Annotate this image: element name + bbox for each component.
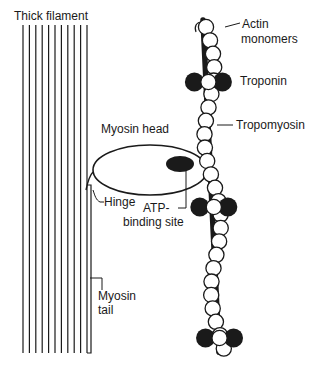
label-troponin: Troponin <box>240 74 287 88</box>
myosin-head <box>93 145 207 195</box>
actin-monomer <box>207 180 222 195</box>
label-thick-filament: Thick filament <box>14 9 89 23</box>
hinge-leader <box>93 190 104 202</box>
actin-monomer <box>212 234 227 249</box>
label-atp: ATP- <box>143 201 169 215</box>
actin-monomer <box>209 247 224 262</box>
thin-filament <box>185 19 243 356</box>
label-myosin-head: Myosin head <box>101 122 169 136</box>
label-tropomyosin: Tropomyosin <box>236 118 305 132</box>
label-monomers: monomers <box>241 32 298 46</box>
actin-monomer <box>201 74 216 89</box>
label-tail: tail <box>98 303 113 317</box>
thick-filament <box>23 25 91 353</box>
actin-monomer <box>197 140 212 155</box>
actin-monomer <box>205 301 220 316</box>
actin-monomer <box>206 199 221 214</box>
actin-leader <box>225 23 240 27</box>
actin-monomer <box>212 330 227 345</box>
label-hinge: Hinge <box>104 195 136 209</box>
actin-monomer <box>202 33 217 48</box>
label-binding-site: binding site <box>123 215 184 229</box>
atp-binding-site <box>166 156 194 172</box>
myosin-head-group <box>86 145 207 195</box>
actin-myosin-diagram: Thick filament Actin monomers Troponin T… <box>0 0 328 366</box>
actin-monomer <box>206 261 221 276</box>
label-myosin: Myosin <box>98 289 136 303</box>
label-actin: Actin <box>242 17 269 31</box>
actin-monomer <box>201 100 216 115</box>
